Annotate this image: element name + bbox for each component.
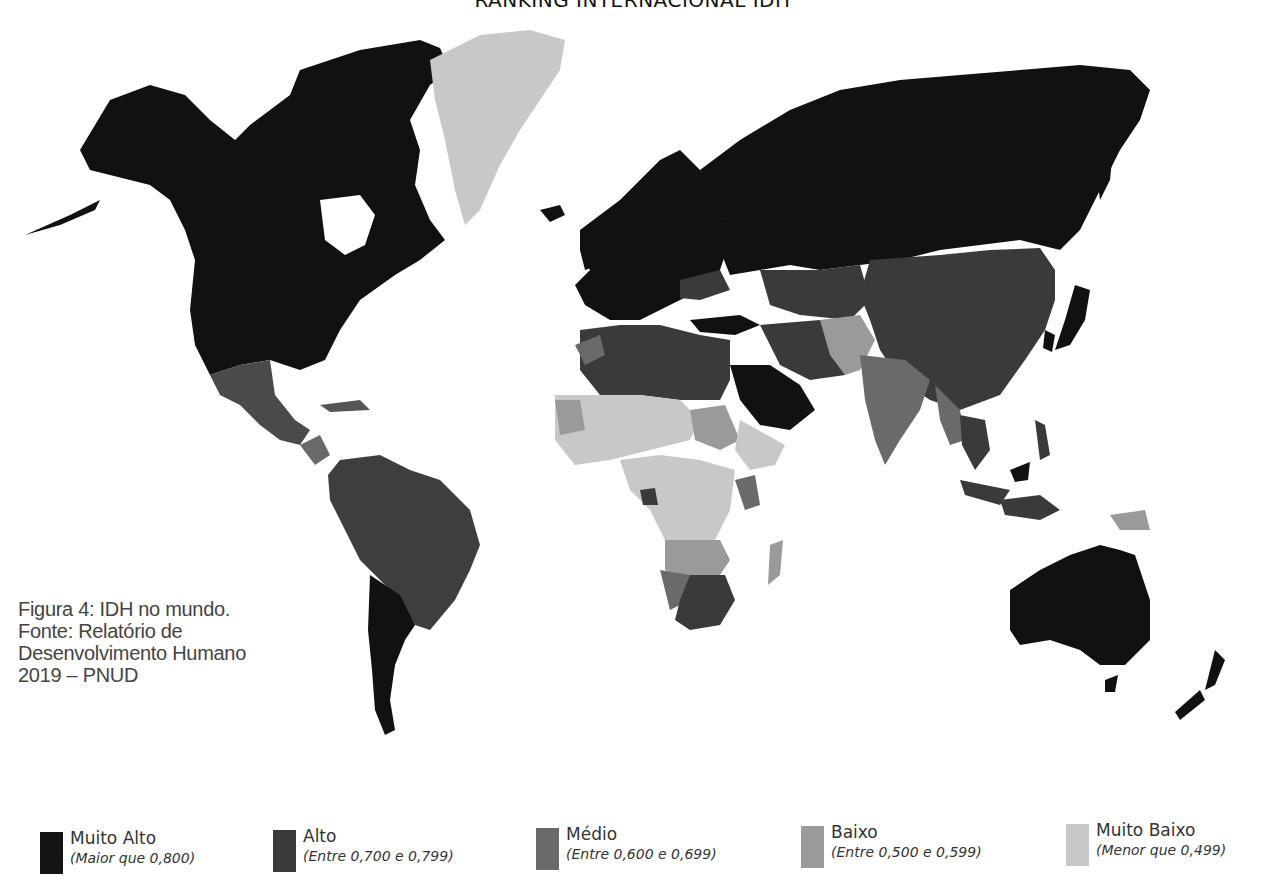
region-mexico bbox=[210, 360, 310, 445]
legend-swatch-medio bbox=[536, 828, 559, 870]
caption-line: Figura 4: IDH no mundo. bbox=[18, 598, 258, 620]
caption-line: 2019 – PNUD bbox=[18, 664, 258, 686]
legend-label: Muito Baixo bbox=[1096, 820, 1226, 840]
legend-swatch-muito-baixo bbox=[1066, 824, 1089, 866]
legend-range: (Menor que 0,499) bbox=[1096, 840, 1226, 860]
legend-swatch-baixo bbox=[801, 826, 824, 868]
legend-item-medio: Médio (Entre 0,600 e 0,699) bbox=[536, 824, 717, 870]
legend-label: Médio bbox=[566, 824, 717, 844]
legend-label: Muito Alto bbox=[70, 828, 195, 848]
region-central-africa bbox=[620, 455, 735, 545]
region-australia bbox=[1010, 545, 1150, 665]
region-new-zealand bbox=[1205, 650, 1225, 690]
caption-line: Fonte: Relatório de bbox=[18, 620, 258, 642]
caption-line: Desenvolvimento Humano bbox=[18, 642, 258, 664]
legend-range: (Entre 0,700 e 0,799) bbox=[303, 846, 454, 866]
figure-caption: Figura 4: IDH no mundo. Fonte: Relatório… bbox=[18, 598, 258, 686]
legend-range: (Entre 0,500 e 0,599) bbox=[831, 842, 982, 862]
legend-swatch-muito-alto bbox=[40, 832, 63, 874]
legend-range: (Maior que 0,800) bbox=[70, 848, 195, 868]
region-greenland bbox=[430, 30, 565, 225]
legend-range: (Entre 0,600 e 0,699) bbox=[566, 844, 717, 864]
legend-item-muito-baixo: Muito Baixo (Menor que 0,499) bbox=[1066, 820, 1226, 866]
map-legend: Muito Alto (Maior que 0,800) Alto (Entre… bbox=[0, 820, 1265, 880]
region-russia bbox=[700, 65, 1150, 275]
legend-label: Baixo bbox=[831, 822, 982, 842]
legend-swatch-alto bbox=[273, 830, 296, 872]
legend-label: Alto bbox=[303, 826, 454, 846]
legend-item-alto: Alto (Entre 0,700 e 0,799) bbox=[273, 826, 454, 872]
region-north-america bbox=[80, 40, 450, 375]
legend-item-muito-alto: Muito Alto (Maior que 0,800) bbox=[40, 828, 195, 874]
region-north-africa bbox=[580, 325, 730, 400]
legend-item-baixo: Baixo (Entre 0,500 e 0,599) bbox=[801, 822, 982, 868]
